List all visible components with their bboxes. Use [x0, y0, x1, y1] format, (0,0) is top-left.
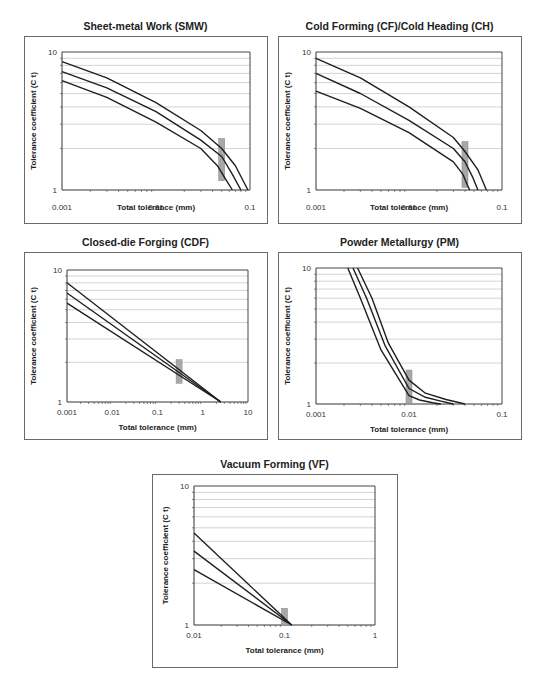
chart-plot-vf: 0.010.11110Total tolerance (mm)Tolerance… [0, 0, 544, 686]
y-tick-label: 1 [185, 621, 190, 630]
y-tick-label: 10 [180, 482, 189, 491]
x-tick-label: 0.01 [186, 631, 202, 640]
x-tick-label: 0.1 [279, 631, 291, 640]
series-line-upper [194, 533, 292, 625]
series-line-middle [194, 551, 292, 625]
x-tick-label: 1 [373, 631, 378, 640]
y-axis-title: Tolerance coefficient (C t) [161, 506, 170, 604]
x-axis-title: Total tolerance (mm) [245, 646, 323, 655]
